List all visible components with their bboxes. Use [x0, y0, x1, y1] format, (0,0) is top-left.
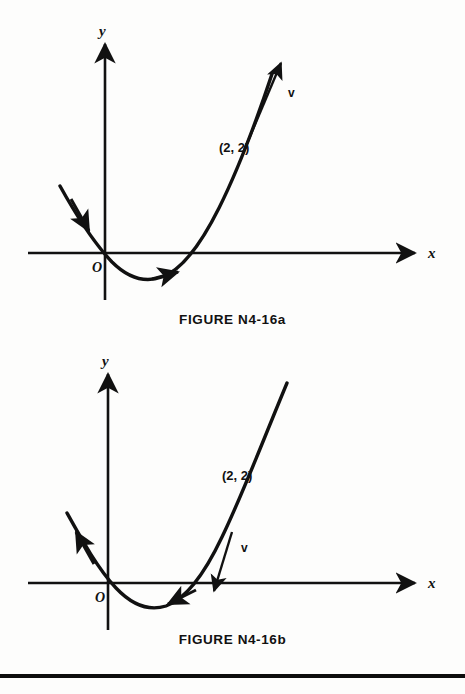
origin-label-a: O: [92, 260, 102, 275]
figure-page: x y O v (2, 2) FIGURE N4-16a: [0, 0, 465, 694]
motion-arrow-vertex-b: [168, 590, 196, 604]
figure-caption-a: FIGURE N4-16a: [0, 312, 465, 327]
x-axis-label-a: x: [427, 245, 436, 261]
plot-b: x y O v (2, 2): [0, 340, 465, 630]
x-axis-label-b: x: [427, 575, 436, 591]
vector-label-b: v: [241, 541, 248, 555]
motion-arrow-left-a: [71, 199, 89, 231]
point-label-b: (2, 2): [222, 468, 252, 483]
page-divider-rule: [0, 674, 465, 678]
origin-label-b: O: [95, 590, 105, 605]
motion-arrow-left-b: [76, 532, 94, 564]
figure-panel-a: x y O v (2, 2) FIGURE N4-16a: [0, 0, 465, 340]
vector-label-a: v: [288, 86, 295, 100]
y-axis-label-b: y: [100, 353, 109, 369]
parabola-curve-a: [60, 74, 272, 279]
point-label-a: (2, 2): [219, 140, 249, 155]
y-axis-label-a: y: [97, 23, 106, 39]
motion-arrow-vertex-a: [152, 272, 178, 279]
parabola-curve-b: [67, 383, 287, 608]
plot-a: x y O v (2, 2): [0, 0, 465, 310]
figure-panel-b: x y O v (2, 2) FIGURE N4-16b: [0, 340, 465, 670]
figure-caption-b: FIGURE N4-16b: [0, 632, 465, 647]
